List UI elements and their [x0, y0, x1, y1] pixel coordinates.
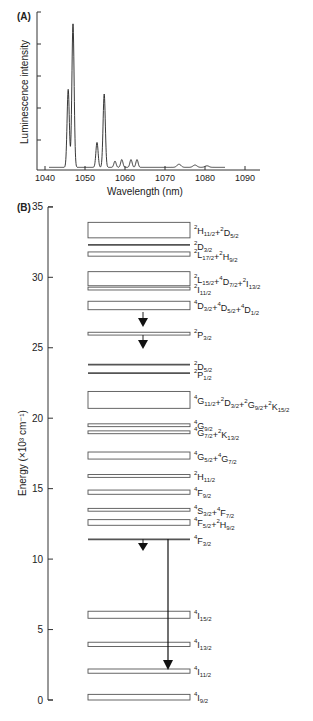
level-label: 4G7/2+2K13/2 — [194, 426, 240, 441]
energy-level-band — [88, 431, 190, 434]
spectrum-line — [49, 24, 225, 168]
energy-level-band — [88, 490, 190, 494]
y-tick-label: 20 — [32, 413, 44, 424]
panel-a-y-label: Luminescence intensity — [19, 40, 30, 144]
energy-levels — [88, 222, 190, 700]
panel-a-label: (A) — [17, 11, 31, 22]
x-tick-label: 1040 — [35, 173, 55, 183]
panel-a-x-label: Wavelength (nm) — [107, 186, 183, 197]
level-label: 2L17/2+2H9/2 — [194, 248, 238, 263]
y-tick-label: 30 — [32, 272, 44, 283]
energy-level-band — [88, 611, 190, 618]
level-label: 4F9/2 — [194, 486, 212, 499]
level-label: 4G5/2+4G7/2 — [194, 450, 237, 465]
panel-b-energy-levels: (B) 05101520253035 Energy (×10³ cm⁻¹) 2H… — [17, 201, 290, 705]
level-label: 4D3/2+4D5/2+4D1/2 — [194, 299, 260, 316]
relaxation-arrow-2-head — [138, 340, 148, 349]
energy-level-band — [88, 508, 190, 511]
energy-level-band — [88, 301, 190, 309]
y-ticks: 05101520253035 — [32, 201, 53, 705]
level-label: 4G11/2+2D3/2+2G9/2+2K15/2 — [194, 394, 290, 413]
energy-level-band — [88, 520, 190, 526]
y-tick-label: 15 — [32, 483, 44, 494]
y-tick-label: 0 — [37, 695, 43, 706]
energy-level-band — [88, 669, 190, 673]
y-tick-label: 25 — [32, 342, 44, 353]
energy-level-band — [88, 272, 190, 286]
level-label: 2P3/2 — [194, 328, 212, 341]
energy-level-band — [88, 424, 190, 427]
y-tick-label: 10 — [32, 554, 44, 565]
figure: (A) 104010501060107010801090 Luminescenc… — [0, 0, 313, 721]
energy-level-band — [88, 475, 190, 478]
y-tick-label: 35 — [32, 201, 44, 212]
level-label: 2H11/2+2D5/2 — [194, 224, 239, 239]
energy-level-band — [88, 694, 190, 700]
level-label: 4I13/2 — [194, 638, 212, 651]
x-tick-label: 1050 — [75, 173, 95, 183]
relaxation-arrow-1-head — [138, 318, 148, 327]
level-label: 4I9/2 — [194, 691, 209, 704]
panel-b-label: (B) — [17, 202, 31, 213]
x-tick-label: 1070 — [155, 173, 175, 183]
level-label: 4F3/2 — [194, 534, 212, 547]
x-tick-label: 1080 — [195, 173, 215, 183]
level-label: 2L15/2+4D7/2+2I13/2 — [194, 273, 261, 290]
energy-level-band — [88, 642, 190, 646]
panel-b-y-label: Energy (×10³ cm⁻¹) — [17, 410, 28, 496]
x-ticks: 104010501060107010801090 — [35, 166, 255, 183]
x-tick-label: 1090 — [235, 173, 255, 183]
panel-a-spectrum: (A) 104010501060107010801090 Luminescenc… — [17, 11, 260, 197]
level-label: 4I11/2 — [194, 665, 212, 678]
energy-level-band — [88, 452, 190, 459]
level-label: 2H11/2 — [194, 470, 216, 483]
energy-level-band — [88, 252, 190, 256]
energy-level-band — [88, 391, 190, 408]
level-label: 4I15/2 — [194, 609, 212, 622]
laser-transition-arrow-head — [163, 660, 173, 670]
x-tick-label: 1060 — [115, 173, 135, 183]
level-labels: 2H11/2+2D5/22D3/22L17/2+2H9/22L15/2+4D7/… — [194, 224, 290, 704]
level-label: 4S3/2+4F7/2 — [194, 504, 235, 519]
relaxation-arrow-3-head — [138, 543, 148, 551]
energy-level-band — [88, 287, 190, 290]
y-tick-label: 5 — [37, 624, 43, 635]
energy-level-band — [88, 332, 190, 335]
energy-level-band — [88, 222, 190, 237]
